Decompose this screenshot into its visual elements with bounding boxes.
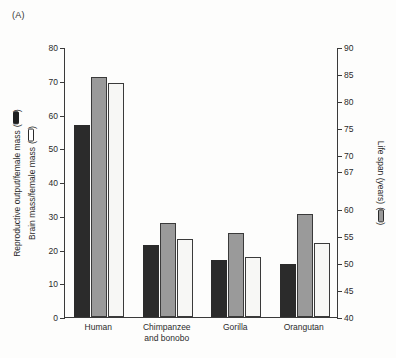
right-tick-label: 45 bbox=[344, 287, 353, 296]
x-axis-category-label: Orangutan bbox=[270, 322, 339, 333]
x-axis-category-label: Chimpanzee and bonobo bbox=[133, 322, 202, 344]
left-tick-label: 20 bbox=[49, 246, 58, 255]
left-tick-mark bbox=[60, 318, 65, 319]
bar-group bbox=[134, 48, 203, 317]
left-tick-label: 30 bbox=[49, 213, 58, 222]
right-axis-label-text: Life span (years) bbox=[376, 141, 386, 204]
right-tick-label: 75 bbox=[344, 125, 353, 134]
bar bbox=[108, 83, 124, 317]
bar bbox=[74, 125, 90, 317]
bar bbox=[160, 223, 176, 318]
paren-close-life: ) bbox=[376, 222, 386, 225]
bar bbox=[297, 214, 313, 317]
right-tick-label: 70 bbox=[344, 152, 353, 161]
left-tick-label: 70 bbox=[49, 78, 58, 87]
right-tick-label: 55 bbox=[344, 233, 353, 242]
bar-group bbox=[65, 48, 134, 317]
x-axis-category-label: Gorilla bbox=[201, 322, 270, 333]
bar bbox=[211, 260, 227, 317]
right-tick-label: 50 bbox=[344, 260, 353, 269]
left-tick-label: 60 bbox=[49, 111, 58, 120]
left-tick-label: 10 bbox=[49, 280, 58, 289]
bar bbox=[245, 257, 261, 317]
left-axis-title-reproductive-output: Reproductive output/female mass ( ) bbox=[10, 109, 23, 257]
right-tick-label: 60 bbox=[344, 206, 353, 215]
right-tick-mark bbox=[337, 318, 342, 319]
hollow-bar-icon bbox=[28, 128, 34, 141]
bar bbox=[91, 77, 107, 317]
right-tick-label: 40 bbox=[344, 314, 353, 323]
left-tick-label: 40 bbox=[49, 179, 58, 188]
left-tick-label: 50 bbox=[49, 145, 58, 154]
paren-open-repro: ( bbox=[11, 124, 21, 127]
bar-group bbox=[202, 48, 271, 317]
bar bbox=[314, 243, 330, 317]
left-axis-title-brain-mass: Brain mass/female mass ( ) bbox=[25, 126, 38, 240]
bar-groups bbox=[65, 48, 337, 317]
right-tick-label: 67 bbox=[344, 168, 353, 177]
right-axis-title-life-span: Life span (years) ( ) bbox=[375, 141, 388, 225]
bar-group bbox=[271, 48, 340, 317]
shaded-bar-icon bbox=[378, 210, 384, 223]
solid-bar-icon bbox=[13, 112, 19, 125]
x-axis-category-label: Human bbox=[64, 322, 133, 333]
left-tick-label: 0 bbox=[53, 314, 58, 323]
left-axis-label-brain-text: Brain mass/female mass bbox=[26, 147, 36, 240]
figure-panel-a: (A) Reproductive output/female mass ( ) … bbox=[0, 0, 396, 358]
bar bbox=[280, 264, 296, 317]
right-tick-label: 80 bbox=[344, 98, 353, 107]
left-tick-label: 80 bbox=[49, 44, 58, 53]
right-tick-label: 85 bbox=[344, 71, 353, 80]
panel-label: (A) bbox=[12, 10, 25, 20]
plot-area: 01020304050607080 4045505560677075808590 bbox=[64, 48, 338, 318]
right-tick-label: 90 bbox=[344, 44, 353, 53]
bar bbox=[177, 239, 193, 317]
bar bbox=[143, 245, 159, 317]
left-axis-label-reproductive-text: Reproductive output/female mass bbox=[11, 130, 21, 257]
bar bbox=[228, 233, 244, 317]
